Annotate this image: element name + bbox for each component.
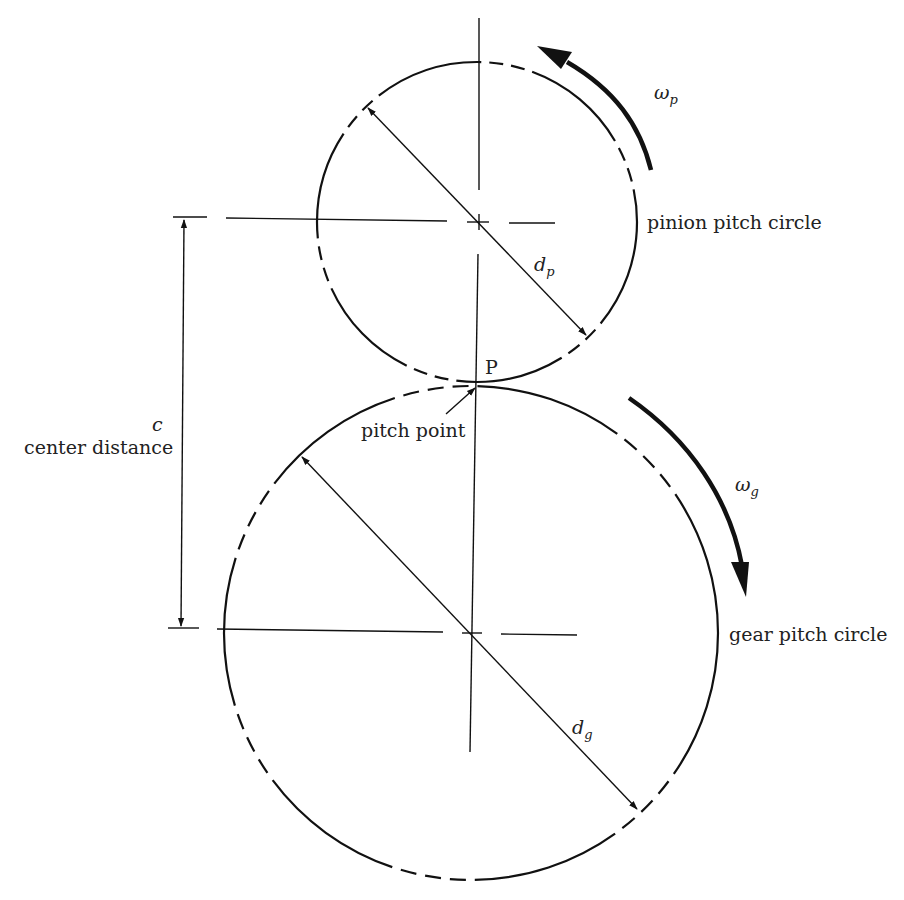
gear-diameter-label: dg [572,716,593,742]
pinion-diameter-label: dp [534,253,555,279]
omega-pinion-arrow [537,46,651,170]
pitch-point-letter: P [485,356,498,378]
pitch-point-leader [446,388,475,414]
pitch-point-label: pitch point [361,419,466,441]
pinion-horizontal-centerline [226,218,555,223]
pinion-pitch-circle-label: pinion pitch circle [647,211,822,233]
center-distance-dimension [168,217,207,628]
center-distance-symbol: c [152,413,163,435]
gear-pitch-circle-label: gear pitch circle [729,623,887,645]
omega-gear-arrow [629,398,749,597]
gear-horizontal-centerline [217,629,577,635]
omega-gear-label: ωg [735,473,759,499]
gear-diameter-dimension [302,457,637,809]
gear-pitch-diagram: pinion pitch circle gear pitch circle P … [0,0,904,900]
omega-pinion-label: ωp [654,81,679,107]
center-distance-label: center distance [24,436,173,458]
